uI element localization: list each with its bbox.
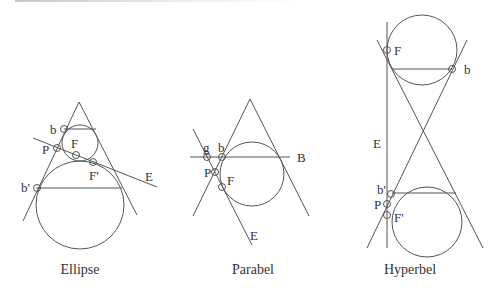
caption-parabola: Parabel: [232, 262, 274, 277]
label-F: F: [227, 173, 234, 188]
label-b-prime: b': [377, 182, 386, 197]
cone-left-edge: [23, 102, 79, 221]
hyperbola-figure: F b E b' P F' Hyperbel: [367, 15, 483, 277]
cone-right-edge: [79, 102, 137, 215]
label-B: B: [297, 150, 306, 165]
caption-hyperbola: Hyperbel: [384, 262, 436, 277]
label-b: b: [218, 140, 225, 155]
label-E: E: [250, 228, 258, 243]
label-P: P: [42, 142, 49, 157]
label-b-prime: b': [21, 180, 30, 195]
conic-sections-diagram: b P F F' E b' Ellipse g b P F B E Parabe…: [0, 0, 499, 290]
label-F: F: [394, 43, 401, 58]
label-E: E: [145, 169, 153, 184]
label-P: P: [204, 165, 211, 180]
label-F-prime: F': [89, 168, 99, 183]
caption-ellipse: Ellipse: [61, 262, 100, 277]
label-g: g: [203, 140, 210, 155]
parabola-figure: g b P F B E Parabel: [190, 99, 309, 277]
label-b: b: [50, 122, 57, 137]
label-F-prime: F': [394, 210, 404, 225]
large-sphere: [36, 161, 124, 249]
ellipse-figure: b P F F' E b' Ellipse: [21, 102, 157, 277]
cone-edge-2: [367, 40, 467, 248]
label-P: P: [374, 197, 381, 212]
label-b: b: [464, 62, 471, 77]
label-E: E: [373, 136, 381, 151]
label-F: F: [71, 136, 78, 151]
